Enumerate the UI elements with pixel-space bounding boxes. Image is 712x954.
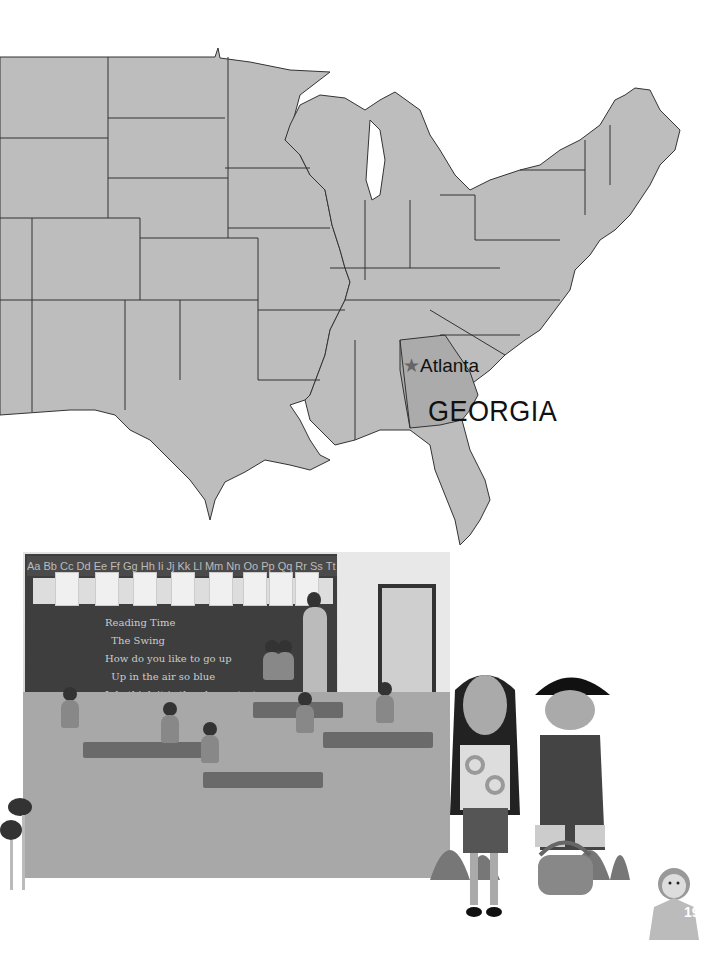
us-map (0, 0, 712, 560)
teacher (303, 607, 327, 697)
state-label-georgia: GEORGIA (428, 394, 557, 428)
page-number-figure (644, 862, 704, 942)
capital-star-icon: ★ (403, 354, 420, 377)
picture-cards (33, 578, 333, 604)
children-illustration (430, 650, 630, 930)
city-label-atlanta: Atlanta (420, 355, 479, 377)
page-number: 19 (684, 904, 700, 920)
classroom-photo: Aa Bb Cc Dd Ee Ff Gg Hh Ii Jj Kk Ll Mm N… (23, 552, 450, 878)
chalkboard-text: Reading Time The Swing How do you like t… (105, 614, 257, 704)
teacher-head (307, 592, 321, 608)
book-page: ★ Atlanta GEORGIA Aa Bb Cc Dd Ee Ff Gg H… (0, 0, 712, 954)
